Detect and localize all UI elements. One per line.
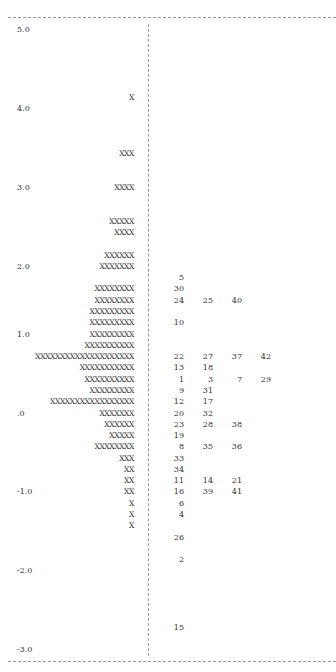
- person-distribution-bar: XX: [124, 475, 134, 486]
- person-distribution-bar: XXXXXXXXX: [90, 329, 134, 340]
- item-number: 41: [218, 486, 242, 497]
- item-number: 12: [160, 396, 184, 407]
- map-row: XXXXXXXX30: [0, 283, 336, 294]
- person-distribution-bar: XXXXXXXXXX: [85, 340, 134, 351]
- item-number: 5: [160, 272, 184, 283]
- map-row: X: [0, 520, 336, 531]
- item-number: 37: [218, 351, 242, 362]
- person-distribution-bar: XXXXXXXXXX: [85, 374, 134, 385]
- person-distribution-bar: XXXXXX: [104, 250, 134, 261]
- person-distribution-bar: XXXXXXXXX: [90, 385, 134, 396]
- bottom-divider: [8, 661, 336, 662]
- item-number: 40: [218, 295, 242, 306]
- item-number: 16: [160, 486, 184, 497]
- y-tick-label: 5.0: [17, 24, 30, 35]
- item-number: 8: [160, 441, 184, 452]
- y-tick-label: .0: [17, 408, 25, 419]
- item-number: 23: [160, 419, 184, 430]
- item-number: 21: [218, 475, 242, 486]
- person-distribution-bar: XXXXXXXX: [94, 441, 134, 452]
- map-row: XXXXXXXXXXXXXXXXXXXX22273742: [0, 351, 336, 362]
- map-row: XXXXXXXX83536: [0, 441, 336, 452]
- map-row: XXXXXXXXXXXXXXXXX1217: [0, 396, 336, 407]
- item-number: 1: [160, 374, 184, 385]
- person-distribution-bar: XXX: [119, 453, 134, 464]
- item-number: 27: [189, 351, 213, 362]
- person-distribution-bar: XXXXXXXX: [94, 283, 134, 294]
- person-distribution-bar: XXXXXXXXXXX: [80, 362, 134, 373]
- person-distribution-bar: X: [129, 520, 134, 531]
- item-number: 42: [247, 351, 271, 362]
- item-number: 14: [189, 475, 213, 486]
- map-row: 5: [0, 272, 336, 283]
- map-row: XXX: [0, 148, 336, 159]
- y-tick-label: 2.0: [17, 261, 30, 272]
- person-distribution-bar: XXXXXXXXXXXXXXXXXXXX: [35, 351, 134, 362]
- item-number: 6: [160, 498, 184, 509]
- item-number: 3: [189, 374, 213, 385]
- map-row: 2: [0, 554, 336, 565]
- item-number: 32: [189, 408, 213, 419]
- person-distribution-bar: XXXXXXX: [99, 408, 134, 419]
- person-distribution-bar: XXXXXXXX: [94, 295, 134, 306]
- map-row: -3.0: [0, 644, 336, 655]
- item-number: 13: [160, 362, 184, 373]
- item-number: 4: [160, 509, 184, 520]
- map-row: X: [0, 92, 336, 103]
- item-number: 38: [218, 419, 242, 430]
- map-row: XXXXXXXXX931: [0, 385, 336, 396]
- top-divider: [8, 17, 336, 18]
- item-number: 18: [189, 362, 213, 373]
- map-row: -2.0: [0, 565, 336, 576]
- map-row: .0XXXXXXX2032: [0, 408, 336, 419]
- person-distribution-bar: XXXXXXX: [99, 261, 134, 272]
- person-distribution-bar: XXXXXXXXX: [90, 306, 134, 317]
- map-row: 4.0: [0, 103, 336, 114]
- item-number: 10: [160, 317, 184, 328]
- y-tick-label: -3.0: [17, 644, 32, 655]
- map-row: XXXXXXXXXX13729: [0, 374, 336, 385]
- y-tick-label: 3.0: [17, 182, 30, 193]
- person-distribution-bar: X: [129, 498, 134, 509]
- map-row: XX111421: [0, 475, 336, 486]
- item-number: 24: [160, 295, 184, 306]
- person-distribution-bar: XXXX: [114, 182, 134, 193]
- map-row: XXXXXX: [0, 250, 336, 261]
- map-row: XX34: [0, 464, 336, 475]
- person-distribution-bar: XXXXXXXXX: [90, 317, 134, 328]
- map-row: XXXX: [0, 227, 336, 238]
- map-row: 5.0: [0, 24, 336, 35]
- map-row: 26: [0, 532, 336, 543]
- map-row: 2.0XXXXXXX: [0, 261, 336, 272]
- item-number: 28: [189, 419, 213, 430]
- person-distribution-bar: XXXXX: [109, 430, 134, 441]
- item-number: 17: [189, 396, 213, 407]
- person-distribution-bar: XXXXX: [109, 216, 134, 227]
- map-row: XXXXXX232838: [0, 419, 336, 430]
- person-distribution-bar: XXX: [119, 148, 134, 159]
- person-distribution-bar: XXXXXX: [104, 419, 134, 430]
- item-number: 33: [160, 453, 184, 464]
- y-tick-label: -1.0: [17, 486, 32, 497]
- person-distribution-bar: XX: [124, 464, 134, 475]
- person-distribution-bar: XX: [124, 486, 134, 497]
- map-row: X4: [0, 509, 336, 520]
- map-row: 1.0XXXXXXXXX: [0, 329, 336, 340]
- item-number: 7: [218, 374, 242, 385]
- map-row: XXXXX: [0, 216, 336, 227]
- map-row: XXXXXXXXX: [0, 306, 336, 317]
- item-number: 20: [160, 408, 184, 419]
- map-row: XXXXXXXX242540: [0, 295, 336, 306]
- item-number: 35: [189, 441, 213, 452]
- item-number: 26: [160, 532, 184, 543]
- item-number: 34: [160, 464, 184, 475]
- person-distribution-bar: XXXX: [114, 227, 134, 238]
- item-number: 30: [160, 283, 184, 294]
- item-number: 25: [189, 295, 213, 306]
- item-number: 36: [218, 441, 242, 452]
- map-row: XXXXXXXXX10: [0, 317, 336, 328]
- item-number: 29: [247, 374, 271, 385]
- item-number: 31: [189, 385, 213, 396]
- y-tick-label: -2.0: [17, 565, 32, 576]
- person-distribution-bar: X: [129, 509, 134, 520]
